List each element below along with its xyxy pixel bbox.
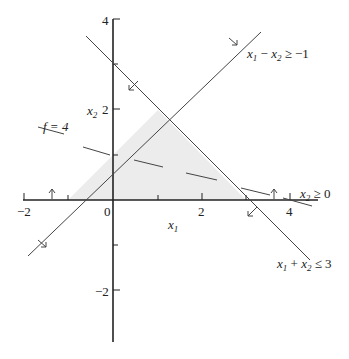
constraint-label-diff: x1 − x2 ≥ −1 bbox=[247, 47, 309, 63]
x-tick-label-0: 0 bbox=[104, 205, 111, 218]
y-tick-label-4: 4 bbox=[102, 14, 109, 27]
y-tick-label-neg2: −2 bbox=[95, 285, 109, 298]
constraint-label-nonneg: x2 ≥ 0 bbox=[300, 187, 330, 203]
x-tick-label-2: 2 bbox=[198, 205, 205, 218]
y-axis-label: x2 bbox=[87, 104, 97, 120]
x-tick-label-4: 4 bbox=[286, 205, 293, 218]
x-axis-label: x1 bbox=[168, 218, 178, 234]
objective-label: f = 4 bbox=[43, 120, 68, 133]
x-tick-label-neg2: −2 bbox=[17, 205, 31, 218]
feasible-region bbox=[68, 110, 246, 200]
constraint-line-diff bbox=[28, 32, 261, 256]
y-tick-label-2: 2 bbox=[102, 103, 109, 116]
constraint-line-sum bbox=[86, 36, 310, 260]
constraint-label-sum: x1 + x2 ≤ 3 bbox=[277, 257, 332, 273]
